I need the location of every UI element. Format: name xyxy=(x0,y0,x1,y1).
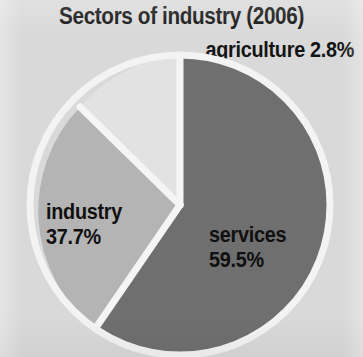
slice-label-services-name: services xyxy=(209,222,286,247)
slice-label-services: services 59.5% xyxy=(209,222,286,272)
slice-label-industry-name: industry xyxy=(46,199,122,224)
slice-label-industry: industry 37.7% xyxy=(46,199,122,249)
slice-label-services-percent: 59.5% xyxy=(209,247,286,272)
slice-label-industry-percent: 37.7% xyxy=(46,224,122,249)
pie-chart-svg xyxy=(0,0,363,357)
pie-chart-figure: Sectors of industry (2006) agriculture 2… xyxy=(0,0,363,357)
pie-chart-plot-area: industry 37.7% services 59.5% xyxy=(0,0,363,357)
